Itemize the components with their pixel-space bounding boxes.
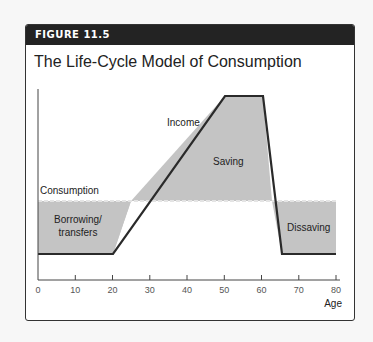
saving-label: Saving [213, 156, 244, 167]
tick-label-10: 10 [70, 285, 80, 295]
consumption-label: Consumption [40, 185, 99, 196]
x-ticks [75, 275, 336, 280]
tick-label-60: 60 [256, 285, 266, 295]
life-cycle-chart: 0 10 20 30 40 50 60 70 80 Age Income Sav… [0, 0, 373, 342]
tick-label-20: 20 [107, 285, 117, 295]
x-axis-label: Age [324, 298, 342, 309]
income-label: Income [167, 117, 200, 128]
borrowing-label-line2: transfers [59, 227, 98, 238]
saving-region [131, 96, 272, 201]
tick-label-30: 30 [145, 285, 155, 295]
tick-label-40: 40 [182, 285, 192, 295]
dissaving-label: Dissaving [287, 222, 330, 233]
tick-label-50: 50 [219, 285, 229, 295]
tick-label-0: 0 [35, 285, 40, 295]
borrowing-label-line1: Borrowing/ [54, 214, 102, 225]
tick-label-70: 70 [294, 285, 304, 295]
tick-label-80: 80 [331, 285, 341, 295]
